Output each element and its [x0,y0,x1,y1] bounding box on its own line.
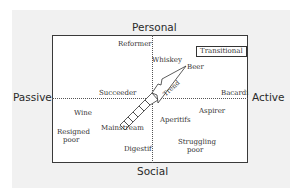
trend-arrow-icon: Trend [0,0,300,196]
label-struggling-poor: Struggling [178,138,216,146]
label-digestif: Digestif [124,145,152,153]
label-whiskey: Whiskey [152,56,182,64]
label-reformer: Reformer [118,40,152,48]
label-mainstream: Mainstream [101,124,144,132]
label-struggling-poor-line2: poor [187,146,203,154]
label-aperitifs: Aperitifs [160,116,191,124]
label-beer: Beer [187,63,204,71]
label-succeeder: Succeeder [99,89,136,97]
label-bacardi: Bacardi [221,89,248,97]
label-wine: Wine [74,109,92,117]
label-resigned-poor-line2: poor [63,136,79,144]
label-aspirer: Aspirer [199,107,225,115]
label-resigned-poor: Resigned [57,128,90,136]
